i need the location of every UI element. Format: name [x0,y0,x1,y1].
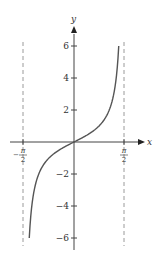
y-tick-label-neg6: −6 [56,233,70,243]
svg-text:2: 2 [122,156,126,164]
svg-text:π: π [121,147,127,155]
x-tick-label-half-pi: π 2 [120,147,128,164]
y-axis-label: y [70,14,77,24]
svg-text:π: π [20,147,26,155]
x-axis-arrow-icon [138,139,145,145]
y-tick-label-neg2: −2 [56,169,69,179]
x-axis-label: x [147,137,152,147]
y-tick-label-2: 2 [63,105,69,115]
svg-text:−: − [13,151,19,159]
y-axis-arrow-icon [71,26,77,33]
y-tick-label-neg4: −4 [56,201,70,211]
x-tick-label-neg-half-pi: − π 2 [13,147,27,164]
y-tick-label-6: 6 [63,41,69,51]
y-tick-label-4: 4 [63,73,69,83]
svg-text:2: 2 [21,156,25,164]
tangent-graph: x y 6 4 2 −2 −4 −6 − π 2 π 2 [0,0,157,256]
